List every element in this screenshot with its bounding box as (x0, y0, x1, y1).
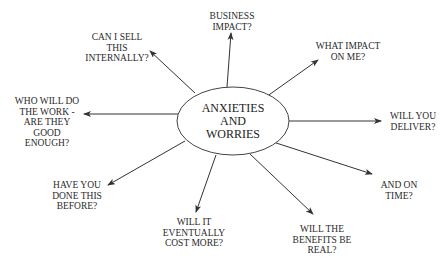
arrow-to-business-impact (227, 33, 231, 87)
branch-label-and-on-time: AND ONTIME? (381, 180, 418, 201)
branch-label-line: WHAT IMPACT (316, 41, 381, 52)
central-topic-label: ANXIETIES AND WORRIES (202, 102, 265, 141)
branch-label-what-impact-on-me: WHAT IMPACTON ME? (316, 41, 381, 62)
branch-label-line: EVENTUALLY (163, 228, 225, 239)
arrow-to-what-impact-on-me (266, 60, 318, 97)
mind-map-diagram: ANXIETIES AND WORRIES BUSINESSIMPACT?WHA… (0, 0, 445, 267)
center-line-3: WORRIES (202, 128, 265, 141)
branch-label-line: COST MORE? (163, 238, 225, 249)
branch-label-will-you-deliver: WILL YOUDELIVER? (390, 111, 436, 132)
branch-label-line: HAVE YOU (52, 180, 102, 191)
branch-label-line: REAL? (293, 245, 352, 256)
branch-label-line: ENOUGH? (15, 138, 79, 149)
branch-label-line: BEFORE? (52, 201, 102, 212)
branch-label-line: INTERNALLY? (85, 53, 148, 64)
branch-label-will-it-eventually-cost-more: WILL ITEVENTUALLYCOST MORE? (163, 217, 225, 249)
branch-label-line: ON ME? (316, 52, 381, 63)
arrow-to-will-the-benefits-be-real (250, 154, 313, 214)
branch-label-line: WILL THE (293, 224, 352, 235)
arrow-to-can-i-sell-this-internally (150, 51, 195, 93)
branch-label-line: GOOD (15, 128, 79, 139)
branch-label-line: CAN I SELL (85, 32, 148, 43)
arrow-to-and-on-time (270, 141, 372, 174)
branch-label-who-will-do-the-work: WHO WILL DOTHE WORK -ARE THEYGOODENOUGH? (15, 96, 79, 149)
branch-label-line: THIS (85, 43, 148, 54)
branch-label-line: BUSINESS (210, 11, 255, 22)
arrow-to-will-it-eventually-cost-more (196, 155, 216, 212)
branch-label-line: DONE THIS (52, 191, 102, 202)
branch-label-line: BENEFITS BE (293, 235, 352, 246)
branch-label-line: THE WORK - (15, 107, 79, 118)
branch-label-line: ARE THEY (15, 117, 79, 128)
arrow-to-have-you-done-this-before (108, 141, 185, 185)
branch-label-line: DELIVER? (390, 122, 436, 133)
branch-label-will-the-benefits-be-real: WILL THEBENEFITS BEREAL? (293, 224, 352, 256)
branch-label-line: TIME? (381, 191, 418, 202)
branch-label-line: AND ON (381, 180, 418, 191)
branch-label-business-impact: BUSINESSIMPACT? (210, 11, 255, 32)
branch-label-line: WILL IT (163, 217, 225, 228)
branch-label-line: WILL YOU (390, 111, 436, 122)
branch-label-have-you-done-this-before: HAVE YOUDONE THISBEFORE? (52, 180, 102, 212)
branch-label-can-i-sell-this-internally: CAN I SELLTHISINTERNALLY? (85, 32, 148, 64)
branch-label-line: WHO WILL DO (15, 96, 79, 107)
branch-label-line: IMPACT? (210, 22, 255, 33)
